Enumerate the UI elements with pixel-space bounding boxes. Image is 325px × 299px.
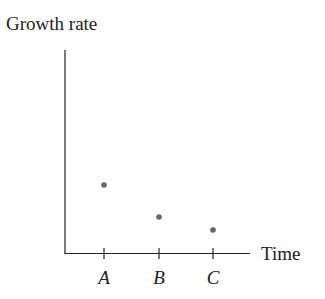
data-point-b [156, 214, 162, 220]
data-points [101, 182, 216, 233]
tick-label-a: A [96, 267, 110, 288]
data-point-a [101, 182, 107, 188]
tick-label-b: B [153, 267, 165, 288]
tick-label-c: C [207, 267, 220, 288]
x-axis-label: Time [261, 243, 300, 264]
data-point-c [210, 227, 216, 233]
growth-rate-chart: Growth rate Time A B C [0, 0, 325, 299]
y-axis-label: Growth rate [6, 13, 97, 34]
